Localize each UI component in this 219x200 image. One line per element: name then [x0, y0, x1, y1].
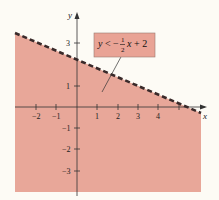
x-tick-label: −2 — [32, 112, 41, 121]
inequality-graph: −2 −1 1 2 3 4 3 1 −1 −2 −3 x y y < − 1 2… — [0, 0, 219, 200]
callout-frac-numerator: 1 — [121, 36, 125, 44]
callout-rest: + 2 — [134, 38, 147, 49]
callout-y-var: y — [97, 38, 103, 49]
x-axis-arrow-icon — [200, 105, 207, 110]
callout-less-than: < — [105, 38, 111, 49]
x-tick-label: 4 — [156, 112, 160, 121]
y-tick-label: 1 — [66, 82, 70, 91]
x-tick-label: −1 — [52, 112, 61, 121]
y-tick-label: 3 — [66, 39, 70, 48]
y-tick-label: −1 — [62, 124, 71, 133]
x-tick-label: 2 — [116, 112, 120, 121]
y-tick-label: −2 — [62, 145, 71, 154]
y-axis-arrow-icon — [75, 12, 80, 19]
x-axis-label: x — [202, 111, 207, 121]
x-tick-label: 1 — [95, 112, 99, 121]
callout-x-var: x — [126, 38, 132, 49]
x-tick-label: 3 — [136, 112, 140, 121]
callout-frac-denominator: 2 — [121, 46, 125, 54]
y-tick-label: −3 — [62, 167, 71, 176]
callout-minus: − — [113, 38, 119, 49]
y-axis-label: y — [67, 10, 72, 20]
